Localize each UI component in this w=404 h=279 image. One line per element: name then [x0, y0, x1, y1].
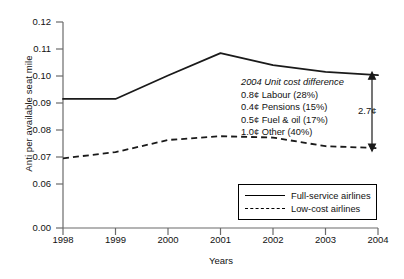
annotation-line-fuel-oil: 0.5¢ Fuel & oil (17%) — [241, 114, 344, 127]
annotation-line-pensions: 0.4¢ Pensions (15%) — [241, 101, 344, 114]
x-tick-label: 2004 — [358, 234, 398, 245]
y-tick-label: 0.10 — [23, 71, 51, 81]
legend-item-low-cost: Low-cost airlines — [239, 202, 376, 215]
x-tick-label: 2002 — [253, 234, 293, 245]
y-tick-label: 0.07 — [23, 152, 51, 162]
annotation-line-labour: 0.8¢ Labour (28%) — [241, 89, 344, 102]
y-tick-marks — [56, 22, 63, 228]
legend-swatch-dashed-line-icon — [245, 208, 285, 210]
unit-cost-difference-annotation: 2004 Unit cost difference 0.8¢ Labour (2… — [241, 76, 344, 139]
y-tick-label: 0.06 — [23, 179, 51, 189]
y-tick-label: 0.00 — [23, 223, 51, 233]
chart-legend: Full-service airlines Low-cost airlines — [238, 184, 377, 220]
y-tick-label: 0.09 — [23, 98, 51, 108]
difference-value-label: 2.7¢ — [358, 105, 377, 116]
legend-label: Full-service airlines — [291, 191, 371, 201]
y-tick-label: 0.11 — [23, 44, 51, 54]
x-tick-label: 1998 — [43, 234, 83, 245]
x-tick-label: 1999 — [96, 234, 136, 245]
chart-figure: Anti per available seat mile 0.12 0.11 0… — [0, 0, 404, 279]
legend-swatch-solid-line-icon — [245, 195, 285, 197]
annotation-heading: 2004 Unit cost difference — [241, 76, 344, 89]
x-tick-label: 2000 — [148, 234, 188, 245]
x-tick-label: 2003 — [306, 234, 346, 245]
y-tick-label: 0.12 — [23, 17, 51, 27]
annotation-line-other: 1.0¢ Other (40%) — [241, 126, 344, 139]
x-tick-label: 2001 — [201, 234, 241, 245]
x-axis-title: Years — [63, 255, 379, 266]
legend-item-full-service: Full-service airlines — [239, 189, 376, 202]
series-line-low-cost — [63, 136, 378, 158]
y-tick-label: 0.08 — [23, 125, 51, 135]
legend-label: Low-cost airlines — [291, 204, 360, 214]
